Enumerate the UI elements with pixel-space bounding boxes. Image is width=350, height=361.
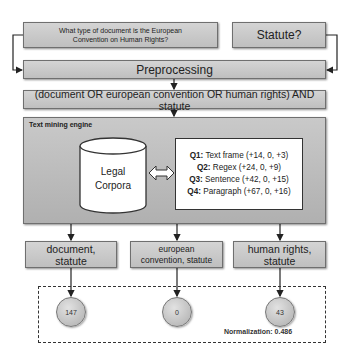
category-text: Statute? (257, 28, 302, 42)
result-box-human-rights-statute: human rights,statute (233, 241, 326, 268)
question-text: What type of document is the European Co… (42, 26, 199, 44)
query-strategy-item: Q3: Sentence (+42, 0, +15) (189, 174, 289, 186)
category-input-box: Statute? (232, 22, 326, 48)
count-circle-human-rights: 43 (265, 297, 295, 327)
question-input-box: What type of document is the European Co… (23, 22, 218, 48)
query-strategy-item: Q1: Text frame (+14, 0, +3) (190, 150, 289, 162)
legal-corpora-label: Legal Corpora (79, 165, 147, 193)
query-strategies-list: Q1: Text frame (+14, 0, +3) Q2: Regex (+… (175, 138, 303, 210)
preprocessing-label: Preprocessing (136, 63, 213, 77)
engine-label: Text mining engine (29, 121, 92, 128)
normalization-score: Normalization: 0.486 (224, 328, 292, 335)
result-box-document-statute: document,statute (25, 241, 117, 268)
query-strategy-item: Q2: Regex (+24, 0, +9) (197, 162, 281, 174)
boolean-query-text: (document OR european convention OR huma… (24, 88, 325, 112)
double-arrow-icon (148, 165, 175, 181)
result-box-european-convention-statute: europeanconvention, statute (130, 241, 223, 268)
count-circle-document: 147 (56, 297, 86, 327)
query-strategy-item: Q4: Paragraph (+67, 0, +16) (187, 186, 290, 198)
count-circle-european-convention: 0 (162, 297, 192, 327)
preprocessing-box: Preprocessing (23, 60, 326, 79)
boolean-query-box: (document OR european convention OR huma… (23, 90, 326, 109)
